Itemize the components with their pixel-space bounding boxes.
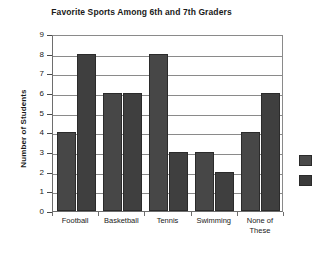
x-axis-label-line: Basketball bbox=[95, 216, 147, 226]
bar bbox=[77, 54, 96, 211]
bars-layer bbox=[53, 36, 282, 211]
y-axis-tick-label: 7 bbox=[22, 69, 44, 78]
y-axis-tick-label: 9 bbox=[22, 30, 44, 39]
bar bbox=[215, 172, 234, 211]
y-axis-tick-label: 4 bbox=[22, 128, 44, 137]
x-axis-tick bbox=[283, 212, 284, 216]
x-axis-label-line: None of bbox=[234, 216, 286, 226]
y-axis-tick-label: 3 bbox=[22, 148, 44, 157]
bar-chart-figure: Favorite Sports Among 6th and 7th Grader… bbox=[0, 0, 318, 256]
x-axis-label: Tennis bbox=[142, 216, 194, 226]
y-axis-tick-label: 6 bbox=[22, 89, 44, 98]
bar bbox=[149, 54, 168, 211]
x-axis-label-line: These bbox=[234, 226, 286, 236]
x-axis-label: Basketball bbox=[95, 216, 147, 226]
x-axis-label-line: Football bbox=[49, 216, 101, 226]
bar-group bbox=[149, 36, 188, 211]
x-axis-label: None ofThese bbox=[234, 216, 286, 235]
y-axis-tick-label: 5 bbox=[22, 109, 44, 118]
bar bbox=[195, 152, 214, 211]
x-axis-label: Swimming bbox=[188, 216, 240, 226]
bar-group bbox=[103, 36, 142, 211]
y-axis-tick-label: 8 bbox=[22, 50, 44, 59]
x-axis-label-line: Tennis bbox=[142, 216, 194, 226]
series-1-swatch bbox=[299, 155, 312, 166]
bar bbox=[103, 93, 122, 211]
bar bbox=[123, 93, 142, 211]
y-axis-tick-label: 0 bbox=[22, 207, 44, 216]
plot-area bbox=[52, 35, 283, 212]
bar-group bbox=[195, 36, 234, 211]
bar bbox=[241, 132, 260, 211]
x-axis-label-line: Swimming bbox=[188, 216, 240, 226]
bar bbox=[261, 93, 280, 211]
series-2-swatch bbox=[299, 175, 312, 186]
chart-title: Favorite Sports Among 6th and 7th Grader… bbox=[0, 7, 283, 17]
bar-group bbox=[57, 36, 96, 211]
bar bbox=[57, 132, 76, 211]
y-axis-tick-label: 1 bbox=[22, 187, 44, 196]
x-axis-label: Football bbox=[49, 216, 101, 226]
y-axis-tick-label: 2 bbox=[22, 168, 44, 177]
bar bbox=[169, 152, 188, 211]
bar-group bbox=[241, 36, 280, 211]
